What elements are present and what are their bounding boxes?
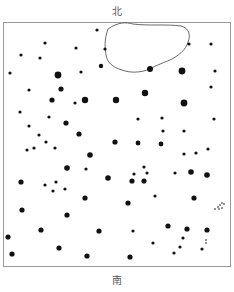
dot <box>142 90 148 96</box>
dot <box>205 239 207 241</box>
dot <box>204 227 209 232</box>
dot <box>27 88 30 91</box>
dot <box>55 72 62 79</box>
dot <box>127 254 132 259</box>
dot <box>99 64 103 68</box>
dot <box>151 241 154 244</box>
dot <box>113 97 119 103</box>
dot <box>64 165 70 171</box>
dot <box>179 68 186 75</box>
dot <box>18 110 21 113</box>
dot <box>194 151 197 154</box>
dot <box>47 115 50 118</box>
dot <box>182 129 185 132</box>
dot <box>43 41 46 44</box>
dot <box>56 245 61 250</box>
dot <box>214 208 216 210</box>
dot <box>182 152 185 155</box>
dot <box>64 212 69 217</box>
dot <box>161 129 164 132</box>
dot <box>223 203 225 205</box>
dot <box>8 71 11 74</box>
dot <box>145 171 148 174</box>
dot <box>191 195 196 200</box>
dot <box>73 101 76 104</box>
dot <box>19 53 22 56</box>
dot <box>172 251 175 254</box>
dot <box>213 69 216 72</box>
dot <box>181 100 188 107</box>
dot <box>206 147 209 150</box>
dot <box>58 86 63 91</box>
dot <box>95 28 98 31</box>
dot <box>18 179 23 184</box>
dot <box>5 234 10 239</box>
dot <box>43 183 46 186</box>
dot <box>76 131 81 136</box>
dot <box>27 124 30 127</box>
dot <box>37 133 40 136</box>
dot <box>204 172 210 178</box>
dot <box>178 245 181 248</box>
tree-distribution-map <box>0 0 234 292</box>
pond-outline <box>105 23 189 72</box>
dot <box>136 117 139 120</box>
dot <box>136 141 141 146</box>
dot <box>131 229 134 232</box>
dot <box>9 251 14 256</box>
dot <box>219 204 221 206</box>
dot <box>212 117 215 120</box>
dot <box>221 202 223 204</box>
dot <box>63 120 68 125</box>
dot <box>132 172 135 175</box>
dot <box>49 97 54 102</box>
dot <box>129 178 134 183</box>
dot <box>105 175 111 181</box>
dot <box>165 223 170 228</box>
dot <box>82 97 88 103</box>
dot <box>184 226 189 231</box>
dot <box>96 228 101 233</box>
dot <box>82 195 87 200</box>
dot <box>38 56 41 59</box>
dot <box>200 247 203 250</box>
dot <box>112 139 117 144</box>
dot <box>205 242 207 244</box>
dot <box>217 206 219 208</box>
dot <box>87 152 93 158</box>
dot <box>141 178 146 183</box>
dot <box>44 140 47 143</box>
dot <box>63 187 66 190</box>
dot-layer <box>5 28 224 259</box>
dot <box>187 42 190 45</box>
dot <box>173 171 176 174</box>
dot <box>159 142 164 147</box>
dot <box>53 146 56 149</box>
dot <box>25 148 28 151</box>
dot <box>103 47 106 50</box>
dot <box>142 165 145 168</box>
dot <box>218 208 220 210</box>
dot <box>147 66 153 72</box>
dot <box>209 85 212 88</box>
dot <box>125 200 130 205</box>
dot <box>51 189 54 192</box>
dot <box>160 116 163 119</box>
south-label: 南 <box>107 272 127 287</box>
dot <box>32 146 35 149</box>
dot <box>19 207 24 212</box>
dot <box>84 167 87 170</box>
dot <box>38 227 43 232</box>
dot <box>209 42 212 45</box>
dot <box>221 207 223 209</box>
dot <box>181 236 184 239</box>
dot <box>54 180 57 183</box>
dot <box>188 169 194 175</box>
dot <box>153 194 156 197</box>
dot <box>79 70 82 73</box>
dot <box>74 46 77 49</box>
dot <box>84 253 89 258</box>
